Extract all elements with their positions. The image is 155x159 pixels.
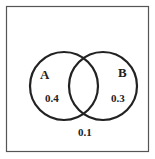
outside-value: 0.1 bbox=[78, 126, 92, 138]
venn-diagram: A B 0.4 0.3 0.1 bbox=[0, 0, 155, 159]
set-b-label: B bbox=[118, 65, 127, 80]
set-a-only-value: 0.4 bbox=[45, 92, 59, 104]
set-b-only-value: 0.3 bbox=[111, 92, 125, 104]
set-a-label: A bbox=[40, 67, 50, 82]
